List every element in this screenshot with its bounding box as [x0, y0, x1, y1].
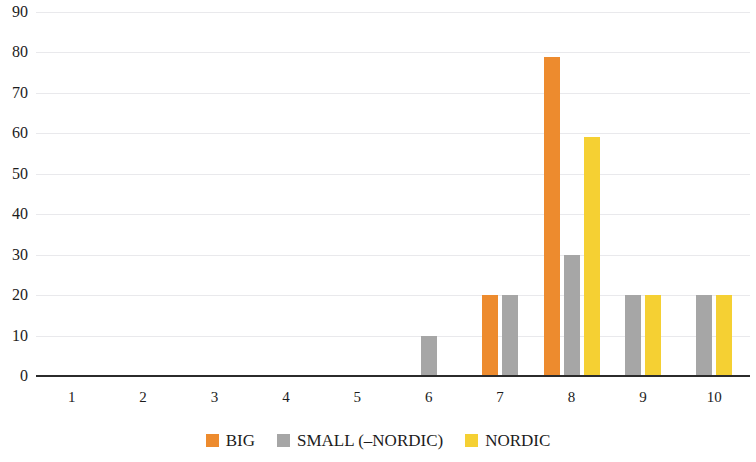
x-axis-tick-label: 7	[496, 390, 504, 405]
legend-item-label: BIG	[226, 432, 255, 449]
legend-item-label: SMALL (–NORDIC)	[297, 432, 443, 449]
bar	[502, 295, 518, 376]
bar-chart: 0102030405060708090 12345678910 BIGSMALL…	[0, 0, 756, 462]
x-axis-line	[36, 375, 750, 377]
y-axis-tick-label: 90	[0, 4, 28, 20]
legend-item[interactable]: SMALL (–NORDIC)	[277, 432, 443, 449]
bar	[584, 137, 600, 376]
y-axis-tick-label: 20	[0, 287, 28, 303]
bar	[421, 336, 437, 376]
bar	[564, 255, 580, 376]
x-axis-tick-label: 8	[568, 390, 576, 405]
y-axis-tick-label: 0	[0, 368, 28, 384]
x-axis-tick-label: 3	[211, 390, 219, 405]
bar	[625, 295, 641, 376]
x-axis-tick-label: 10	[707, 390, 722, 405]
legend-item-label: NORDIC	[485, 432, 550, 449]
bar	[482, 295, 498, 376]
y-axis-tick-label: 10	[0, 328, 28, 344]
legend-swatch-icon	[465, 434, 478, 447]
x-axis-tick-label: 6	[425, 390, 433, 405]
y-axis-tick-label: 30	[0, 247, 28, 263]
x-axis-tick-label: 1	[68, 390, 76, 405]
y-axis-tick-label: 50	[0, 166, 28, 182]
chart-legend: BIGSMALL (–NORDIC)NORDIC	[0, 432, 756, 449]
bar	[645, 295, 661, 376]
legend-item[interactable]: NORDIC	[465, 432, 550, 449]
legend-swatch-icon	[277, 434, 290, 447]
x-axis-tick-label: 9	[639, 390, 647, 405]
y-axis-tick-label: 70	[0, 85, 28, 101]
bar-series-group	[36, 12, 750, 376]
legend-item[interactable]: BIG	[206, 432, 255, 449]
x-axis-tick-label: 5	[354, 390, 362, 405]
y-axis-tick-label: 60	[0, 125, 28, 141]
legend-swatch-icon	[206, 434, 219, 447]
bar	[696, 295, 712, 376]
bar	[716, 295, 732, 376]
x-axis-tick-label: 4	[282, 390, 290, 405]
x-axis-tick-label: 2	[139, 390, 147, 405]
bar	[544, 57, 560, 377]
y-axis-tick-label: 80	[0, 44, 28, 60]
y-axis-tick-label: 40	[0, 206, 28, 222]
